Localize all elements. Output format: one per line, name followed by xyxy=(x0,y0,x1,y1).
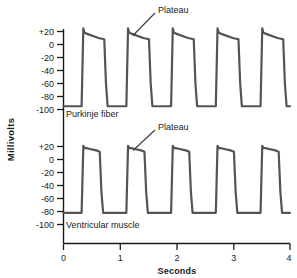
x-axis-title: Seconds xyxy=(158,266,197,276)
y-axis-tick-labels-bottom: +20 0 -20 -40 -60 -80 -100 xyxy=(36,142,54,230)
y-tick-label: -100 xyxy=(36,105,54,115)
x-axis-tick-labels: 0 1 2 3 4 xyxy=(61,253,292,263)
plateau-leader-line-bottom xyxy=(133,130,155,151)
y-tick-label: +20 xyxy=(39,142,54,152)
action-potential-figure: Millivolts +20 0 -20 -40 -60 -80 -100 xyxy=(0,0,297,278)
plateau-leader-line-top xyxy=(133,13,155,36)
y-tick-label: -80 xyxy=(41,207,54,217)
y-tick-label: 0 xyxy=(49,155,54,165)
purkinje-fiber-trace xyxy=(64,28,291,106)
y-tick-label: -20 xyxy=(41,168,54,178)
series-label-purkinje-fiber: Purkinje fiber xyxy=(66,109,119,119)
plateau-label-top: Plateau xyxy=(158,5,189,15)
ventricular-muscle-trace xyxy=(64,146,291,213)
series-label-ventricular-muscle: Ventricular muscle xyxy=(66,220,140,230)
y-tick-label: -20 xyxy=(41,53,54,63)
y-axis-tick-labels-top: +20 0 -20 -40 -60 -80 -100 xyxy=(36,27,54,115)
y-tick-label: -80 xyxy=(41,92,54,102)
y-tick-label: -60 xyxy=(41,194,54,204)
y-tick-label: -40 xyxy=(41,181,54,191)
x-tick-label: 0 xyxy=(61,253,66,263)
x-tick-label: 4 xyxy=(286,253,291,263)
x-tick-label: 1 xyxy=(118,253,123,263)
plateau-label-bottom: Plateau xyxy=(158,122,189,132)
y-axis-ticks-top xyxy=(57,32,64,110)
x-axis-ticks xyxy=(64,244,291,251)
x-tick-label: 3 xyxy=(231,253,236,263)
y-tick-label: 0 xyxy=(49,40,54,50)
y-tick-label: -40 xyxy=(41,66,54,76)
y-tick-label: -60 xyxy=(41,79,54,89)
y-tick-label: -100 xyxy=(36,220,54,230)
x-tick-label: 2 xyxy=(174,253,179,263)
plot-canvas: +20 0 -20 -40 -60 -80 -100 +20 0 -20 -40… xyxy=(0,0,297,278)
y-tick-label: +20 xyxy=(39,27,54,37)
